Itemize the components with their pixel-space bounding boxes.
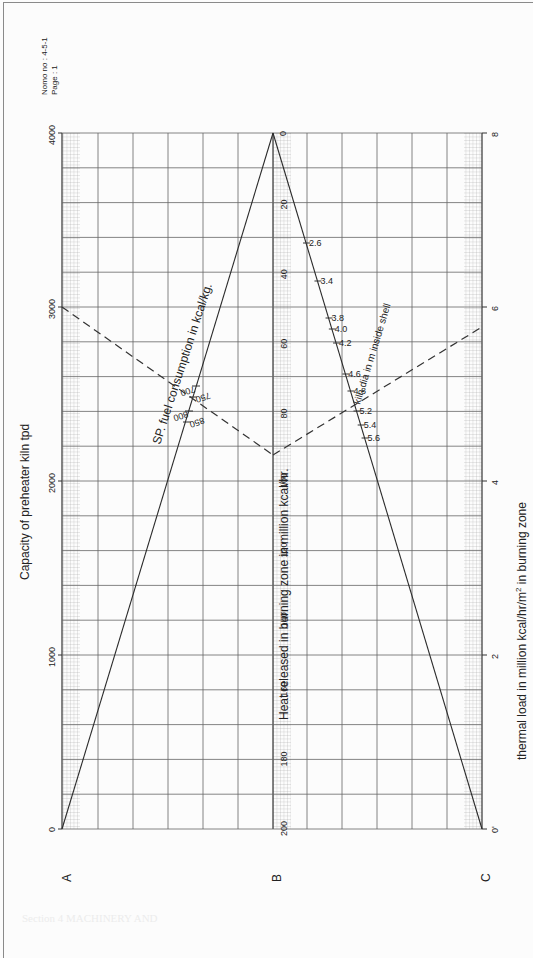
axis-b-tick-label: 180 — [279, 751, 289, 766]
kiln-dia-title: kiln dia in m inside shell — [351, 302, 392, 406]
axis-a-tick-label: 0 — [47, 827, 57, 832]
axis-b-tick-label: 20 — [279, 200, 289, 210]
kiln-dia-tick-label: 2.6 — [309, 238, 322, 248]
axis-a-tick-label: 3000 — [47, 299, 57, 319]
axis-b-title: Heat released in burning zone in million… — [277, 469, 291, 720]
axis-c-tick-label: 2 — [490, 654, 500, 659]
axis-b-tick-label: 40 — [279, 269, 289, 279]
nomogram-page: Section 4 MACHINERY AND 0100020003000400… — [0, 0, 533, 958]
axis-c-tick-label: 4 — [490, 480, 500, 485]
axis-a-tick-label: 2000 — [47, 473, 57, 493]
axis-c-tick-label: 8 — [490, 132, 500, 137]
page-number: Page : 1 — [50, 65, 59, 95]
kiln-dia-tick-label: 3.4 — [320, 276, 333, 286]
axis-c-tick-label: 0' — [490, 826, 500, 833]
axis-a-tick-label: 1000 — [47, 647, 57, 667]
nomogram-chart: 0100020003000400002040608010012014016018… — [0, 0, 533, 958]
kiln-dia-tick-label: 5.4 — [364, 420, 377, 430]
kiln-dia-ticks: 2.63.43.84.04.24.64.85.25.45.6 — [303, 238, 380, 443]
axis-b-letter: B — [270, 874, 284, 882]
kiln-dia-tick-label: 4.0 — [335, 324, 348, 334]
kiln-dia-tick-label: 5.6 — [368, 433, 381, 443]
major-grid — [62, 133, 482, 829]
kiln-dia-tick-label: 3.8 — [332, 313, 345, 323]
nomo-number: Nomo no : 4-5-1 — [40, 37, 49, 95]
kiln-dia-tick-label: 4.2 — [339, 338, 352, 348]
axis-c-tick-label: 6 — [490, 306, 500, 311]
axis-b-tick-label: 80 — [279, 408, 289, 418]
axis-a-tick-label: 4000 — [47, 125, 57, 145]
axis-b-tick-label: 200 — [279, 821, 289, 836]
axis-a-letter: A — [60, 874, 74, 882]
axis-c-letter: C — [479, 873, 493, 882]
axis-b-tick-label: 0 — [278, 131, 288, 136]
axis-b-tick-label: 60 — [279, 339, 289, 349]
kiln-dia-tick-label: 5.2 — [359, 406, 372, 416]
example-dashed-line-1 — [62, 307, 273, 455]
axis-a-title: Capacity of preheater kiln tpd — [18, 424, 32, 580]
axis-c-title: thermal load in million kcal/hr/m2 in bu… — [514, 502, 529, 760]
